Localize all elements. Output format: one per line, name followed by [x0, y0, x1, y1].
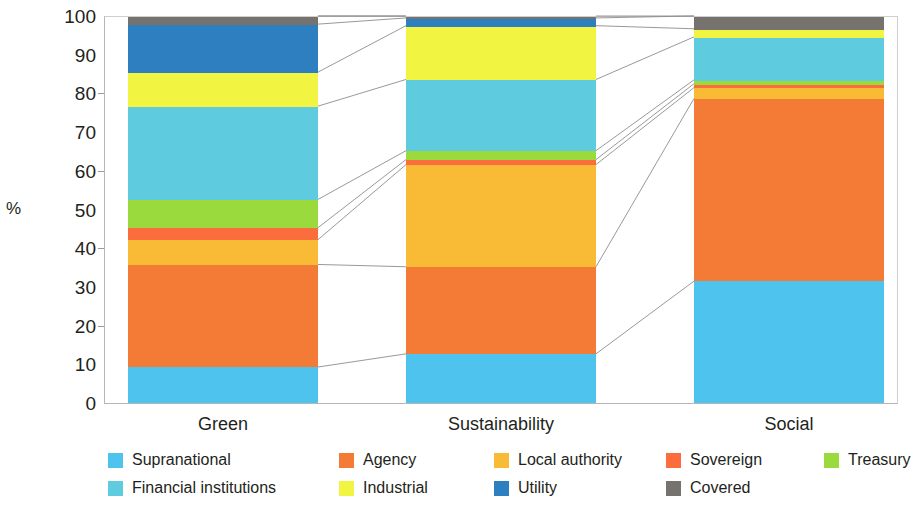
x-label-green: Green: [128, 414, 318, 435]
bar-segment[interactable]: [694, 81, 884, 85]
y-tick-label: 100: [30, 7, 96, 26]
y-tick-label: 50: [30, 201, 96, 220]
bar-segment[interactable]: [128, 73, 318, 107]
legend-item[interactable]: Covered: [666, 480, 750, 496]
legend-swatch: [339, 453, 354, 468]
bar-segment[interactable]: [406, 267, 596, 354]
legend-row-2: Financial institutionsIndustrialUtilityC…: [104, 480, 916, 505]
chart-container: % 1009080706050403020100 Green Sustainab…: [0, 0, 916, 508]
bar-segment[interactable]: [694, 38, 884, 81]
legend-swatch: [666, 453, 681, 468]
legend-item[interactable]: Sovereign: [666, 452, 762, 468]
y-tick-label: 30: [30, 278, 96, 297]
legend-label: Industrial: [363, 480, 428, 496]
y-tick-label: 70: [30, 123, 96, 142]
legend-swatch: [108, 481, 123, 496]
bar-segment[interactable]: [694, 88, 884, 99]
y-tick-label: 60: [30, 162, 96, 181]
legend-item[interactable]: Treasury: [824, 452, 911, 468]
bar-segment[interactable]: [406, 80, 596, 151]
x-label-social: Social: [694, 414, 884, 435]
bar-segment[interactable]: [128, 228, 318, 240]
legend-swatch: [494, 481, 509, 496]
bar-segment[interactable]: [694, 30, 884, 38]
legend-item[interactable]: Industrial: [339, 480, 428, 496]
legend: SupranationalAgencyLocal authoritySovere…: [104, 452, 916, 508]
y-tick-label: 80: [30, 84, 96, 103]
y-tick-label: 90: [30, 46, 96, 65]
bar-segment[interactable]: [694, 17, 884, 30]
legend-label: Agency: [363, 452, 416, 468]
bar-segment[interactable]: [406, 354, 596, 403]
bar-green[interactable]: [128, 17, 318, 403]
legend-swatch: [666, 481, 681, 496]
y-tick-label: 40: [30, 239, 96, 258]
bar-segment[interactable]: [406, 27, 596, 81]
bar-segment[interactable]: [694, 99, 884, 281]
bar-sustainability[interactable]: [406, 17, 596, 403]
bar-segment[interactable]: [128, 107, 318, 200]
legend-swatch: [108, 453, 123, 468]
legend-swatch: [494, 453, 509, 468]
legend-item[interactable]: Agency: [339, 452, 416, 468]
legend-label: Local authority: [518, 452, 622, 468]
bar-segment[interactable]: [406, 160, 596, 165]
legend-label: Utility: [518, 480, 557, 496]
y-tick-label: 0: [30, 394, 96, 413]
bar-segment[interactable]: [128, 25, 318, 73]
y-tick-label: 20: [30, 317, 96, 336]
bar-segment[interactable]: [128, 17, 318, 25]
y-axis-ticks: 1009080706050403020100: [22, 0, 96, 420]
bar-segment[interactable]: [406, 151, 596, 160]
bar-segment[interactable]: [128, 240, 318, 265]
legend-label: Sovereign: [690, 452, 762, 468]
legend-item[interactable]: Local authority: [494, 452, 622, 468]
x-label-sustainability: Sustainability: [406, 414, 596, 435]
bar-segment[interactable]: [128, 367, 318, 403]
bar-segment[interactable]: [128, 265, 318, 367]
legend-item[interactable]: Supranational: [108, 452, 231, 468]
legend-item[interactable]: Utility: [494, 480, 557, 496]
bar-social[interactable]: [694, 17, 884, 403]
y-tick-label: 10: [30, 355, 96, 374]
plot-area: [104, 16, 898, 404]
bar-segment[interactable]: [406, 17, 596, 19]
legend-swatch: [339, 481, 354, 496]
bar-segment[interactable]: [694, 281, 884, 403]
legend-label: Treasury: [848, 452, 911, 468]
bar-segment[interactable]: [128, 200, 318, 228]
legend-label: Covered: [690, 480, 750, 496]
bar-segment[interactable]: [406, 165, 596, 267]
legend-swatch: [824, 453, 839, 468]
legend-row-1: SupranationalAgencyLocal authoritySovere…: [104, 452, 916, 477]
bar-segment[interactable]: [694, 85, 884, 89]
legend-label: Supranational: [132, 452, 231, 468]
legend-item[interactable]: Financial institutions: [108, 480, 276, 496]
legend-label: Financial institutions: [132, 480, 276, 496]
y-axis-title: %: [6, 199, 21, 219]
bar-segment[interactable]: [406, 19, 596, 27]
